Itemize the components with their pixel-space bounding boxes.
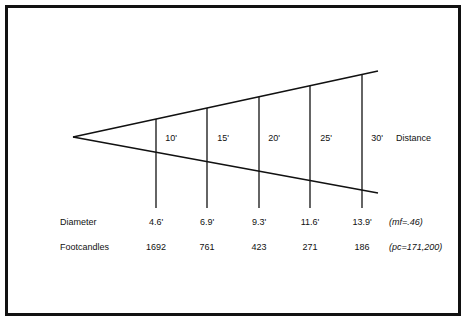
distance-label-1: 10' xyxy=(165,134,177,143)
distance-label-2: 15' xyxy=(217,134,229,143)
cone-lower-edge xyxy=(73,137,378,193)
cone-drawing xyxy=(0,0,466,321)
diameter-row-label: Diameter xyxy=(60,218,97,227)
cone-upper-edge xyxy=(73,71,378,137)
beam-spread-diagram-page: 10' 15' 20' 25' 30' Distance Diameter 4.… xyxy=(0,0,466,321)
diameter-value-2: 6.9' xyxy=(200,218,214,227)
footcandles-value-1: 1692 xyxy=(146,243,166,252)
footcandles-value-2: 761 xyxy=(199,243,214,252)
peak-candela-annotation: (pc=171,200) xyxy=(389,243,442,252)
diameter-value-4: 11.6' xyxy=(301,218,320,227)
footcandles-value-4: 271 xyxy=(302,243,317,252)
footcandles-row-label: Footcandles xyxy=(60,243,109,252)
diameter-value-5: 13.9' xyxy=(352,218,371,227)
distance-axis-label: Distance xyxy=(396,134,431,143)
diameter-value-3: 9.3' xyxy=(252,218,266,227)
distance-label-5: 30' xyxy=(371,134,383,143)
footcandles-value-5: 186 xyxy=(354,243,369,252)
multiplying-factor-annotation: (mf=.46) xyxy=(389,218,423,227)
diameter-value-1: 4.6' xyxy=(149,218,163,227)
footcandles-value-3: 423 xyxy=(251,243,266,252)
distance-label-4: 25' xyxy=(320,134,332,143)
distance-label-3: 20' xyxy=(268,134,280,143)
